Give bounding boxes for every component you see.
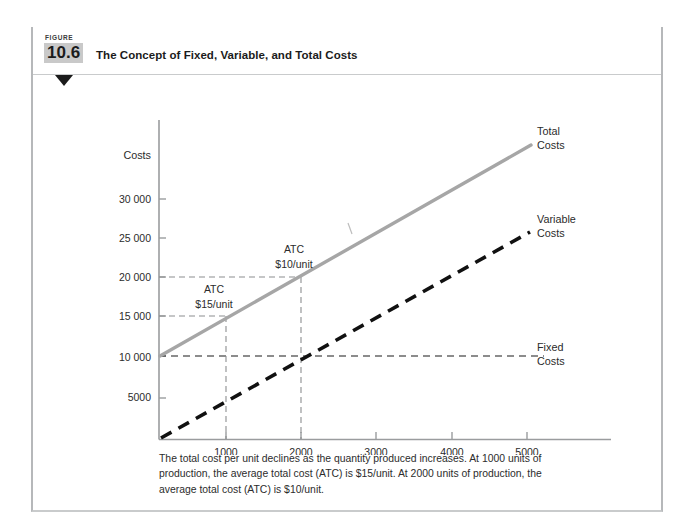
scan-artifact-mark xyxy=(348,223,352,234)
y-tick-label-10000: 10 000 xyxy=(119,351,151,363)
annotation-atc-10-unit-line2: $10/unit xyxy=(275,258,312,270)
chart-plot-area: 5000 10 000 15 000 20 000 25 000 30 000 … xyxy=(33,75,665,455)
y-axis-title: Costs xyxy=(123,149,151,161)
figure-title: The Concept of Fixed, Variable, and Tota… xyxy=(96,49,358,61)
y-tick-label-15000: 15 000 xyxy=(119,310,151,322)
y-tick-label-20000: 20 000 xyxy=(119,271,151,283)
figure-kicker-label: FIGURE xyxy=(45,34,73,41)
series-label-fixed-costs-line1: Fixed xyxy=(537,341,563,353)
y-axis-ticks xyxy=(159,199,166,398)
figure-card: FIGURE 10.6 The Concept of Fixed, Variab… xyxy=(31,27,663,512)
series-line-total-costs xyxy=(160,145,531,356)
cost-curves-chart: 5000 10 000 15 000 20 000 25 000 30 000 … xyxy=(33,75,665,455)
annotation-atc-15-unit-line1: ATC xyxy=(204,283,225,295)
series-label-fixed-costs-line2: Costs xyxy=(537,355,565,367)
series-label-variable-costs-line2: Costs xyxy=(537,227,565,239)
series-label-variable-costs-line1: Variable xyxy=(537,213,576,225)
figure-header: FIGURE 10.6 The Concept of Fixed, Variab… xyxy=(33,27,661,75)
y-tick-label-25000: 25 000 xyxy=(119,232,151,244)
y-tick-label-5000: 5000 xyxy=(128,391,152,403)
annotation-atc-10-unit-line1: ATC xyxy=(284,243,305,255)
y-tick-label-30000: 30 000 xyxy=(119,193,151,205)
series-label-total-costs-line1: Total xyxy=(537,125,560,137)
series-label-total-costs-line2: Costs xyxy=(537,139,565,151)
figure-caption: The total cost per unit declines as the … xyxy=(159,451,579,497)
series-line-variable-costs xyxy=(161,232,530,438)
figure-number-badge: 10.6 xyxy=(44,43,83,63)
annotation-atc-15-unit-line2: $15/unit xyxy=(195,298,232,310)
x-axis-ticks xyxy=(226,432,527,440)
